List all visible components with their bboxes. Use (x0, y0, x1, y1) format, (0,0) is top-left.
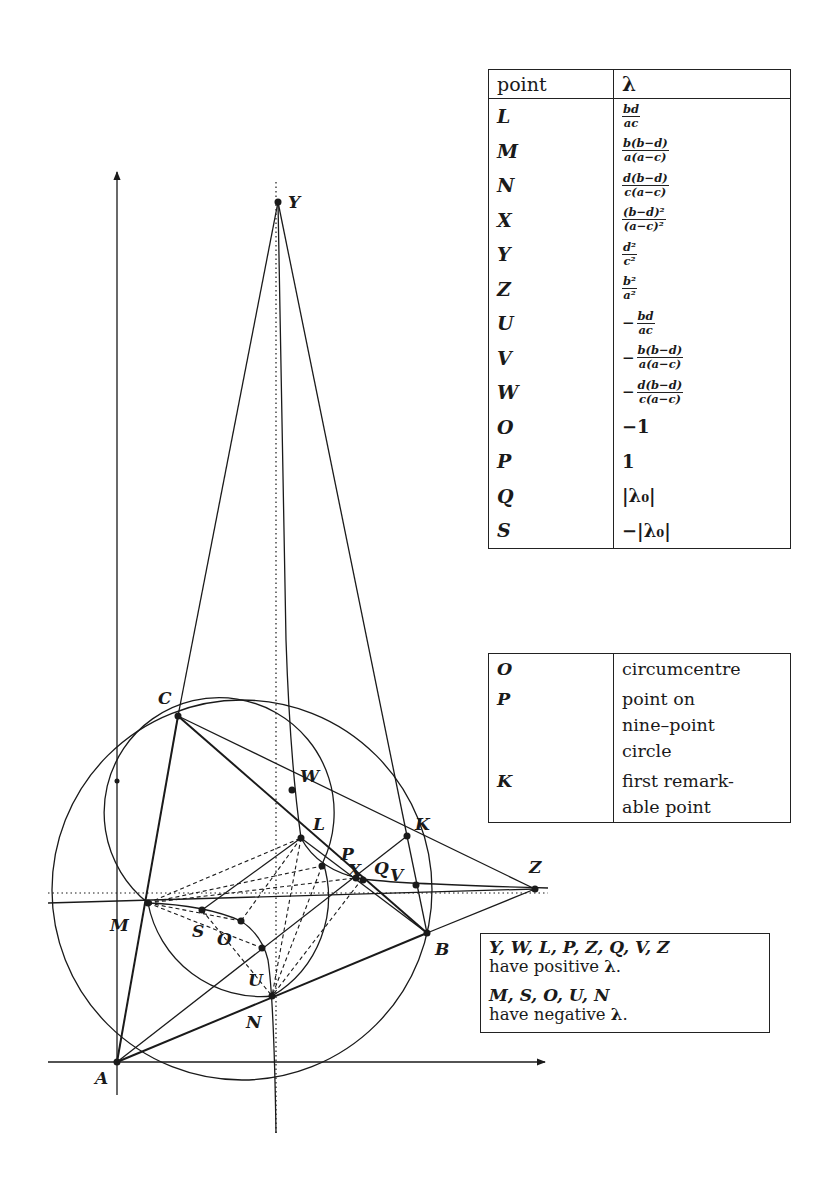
point-name: S (489, 513, 614, 548)
point-name: O (489, 410, 614, 445)
side-AC (117, 716, 178, 1062)
point-label-S: S (192, 921, 204, 941)
point-label-Z: Z (528, 857, 542, 877)
point-description: point onnine–pointcircle (614, 684, 791, 766)
table-row: Zb²a² (489, 272, 791, 307)
column-header-point: point (489, 70, 614, 99)
fraction: d(b−d)c(a−c) (622, 172, 669, 199)
point-markers (114, 199, 539, 1066)
point-label-O: O (217, 929, 232, 949)
table-row: Ppoint onnine–pointcircle (489, 684, 791, 766)
lambda-value: −|λ₀| (614, 513, 791, 548)
line-MZ (48, 889, 535, 903)
lambda-value: (b−d)²(a−c)² (614, 203, 791, 238)
negative-points-list: M, S, O, U, N (489, 986, 761, 1005)
point-label-L: L (312, 814, 325, 834)
table-row: V−b(b−d)a(a−c) (489, 341, 791, 376)
circumcircle (52, 700, 432, 1080)
line-YC (178, 202, 278, 716)
table-row: X(b−d)²(a−c)² (489, 203, 791, 238)
table-row: Lbdac (489, 99, 791, 134)
point-description: circumcentre (614, 654, 791, 685)
fraction: bdac (622, 103, 640, 130)
fraction: bdac (637, 310, 655, 337)
lambda-value: |λ₀| (614, 479, 791, 514)
table-row: Nd(b−d)c(a−c) (489, 168, 791, 203)
point-name: U (489, 306, 614, 341)
point-label-A: A (93, 1068, 108, 1088)
lambda-value: 1 (614, 444, 791, 479)
point-name: X (489, 203, 614, 238)
column-header-lambda: λ (614, 70, 791, 99)
point-name: Q (489, 479, 614, 514)
point-label-N: N (245, 1012, 263, 1032)
point-labels: ABCKZYWLPXQVMSOUN (93, 192, 542, 1088)
fraction: b²a² (622, 275, 637, 302)
positive-points-list: Y, W, L, P, Z, Q, V, Z (489, 938, 761, 957)
point-label-M: M (109, 915, 130, 935)
point-label-K: K (414, 814, 431, 834)
line-YK (278, 202, 407, 836)
point-label-V: V (390, 865, 405, 885)
lambda-value: b²a² (614, 272, 791, 307)
table-row: Mb(b−d)a(a−c) (489, 134, 791, 169)
table-row: O−1 (489, 410, 791, 445)
lambda-value: −bdac (614, 306, 791, 341)
point-description-table: OcircumcentrePpoint onnine–pointcircleKf… (488, 653, 791, 823)
table-row: Ocircumcentre (489, 654, 791, 685)
point-name: K (489, 766, 614, 823)
lambda-value: d(b−d)c(a−c) (614, 168, 791, 203)
negative-caption: have negative λ. (489, 1005, 761, 1024)
lambda-value: b(b−d)a(a−c) (614, 134, 791, 169)
table-row: Kfirst remark-able point (489, 766, 791, 823)
point-label-C: C (158, 688, 172, 708)
point-name: Y (489, 237, 614, 272)
table-row: Q|λ₀| (489, 479, 791, 514)
fraction: d²c² (622, 241, 637, 268)
point-name: L (489, 99, 614, 134)
point-description: first remark-able point (614, 766, 791, 823)
table-row: P1 (489, 444, 791, 479)
point-label-Q: Q (374, 858, 389, 878)
table-row: W−d(b−d)c(a−c) (489, 375, 791, 410)
point-name: P (489, 444, 614, 479)
point-label-B: B (434, 939, 449, 959)
fraction: b(b−d)a(a−c) (637, 344, 684, 371)
positive-caption: have positive λ. (489, 957, 761, 976)
lambda-value: −d(b−d)c(a−c) (614, 375, 791, 410)
sign-legend-box: Y, W, L, P, Z, Q, V, Z have positive λ. … (480, 933, 770, 1033)
point-name: M (489, 134, 614, 169)
point-name: W (489, 375, 614, 410)
line-LB (301, 838, 427, 933)
line-BZ (427, 889, 535, 933)
lambda-value: −b(b−d)a(a−c) (614, 341, 791, 376)
table-row: S−|λ₀| (489, 513, 791, 548)
lambda-value: d²c² (614, 237, 791, 272)
point-name: P (489, 684, 614, 766)
lambda-table: point λ LbdacMb(b−d)a(a−c)Nd(b−d)c(a−c)X… (488, 69, 791, 549)
point-name: V (489, 341, 614, 376)
point-name: N (489, 168, 614, 203)
table-row: Yd²c² (489, 237, 791, 272)
point-name: O (489, 654, 614, 685)
point-label-W: W (300, 766, 321, 786)
lambda-value: −1 (614, 410, 791, 445)
lambda-value: bdac (614, 99, 791, 134)
fraction: b(b−d)a(a−c) (622, 137, 669, 164)
point-label-Y: Y (288, 192, 302, 212)
point-label-X: X (347, 860, 362, 880)
point-label-U: U (248, 970, 264, 990)
point-name: Z (489, 272, 614, 307)
table-row: U−bdac (489, 306, 791, 341)
fraction: d(b−d)c(a−c) (637, 379, 684, 406)
fraction: (b−d)²(a−c)² (622, 206, 666, 233)
